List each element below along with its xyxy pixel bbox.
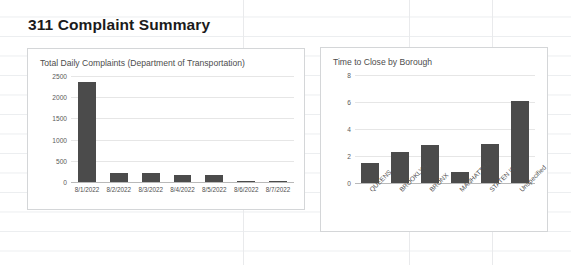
bar-slot: [445, 75, 475, 183]
x-axis-labels-daily: 8/1/20228/2/20228/3/20228/4/20228/5/2022…: [71, 186, 294, 193]
x-axis-label-slot: STATEN IS...: [475, 183, 505, 227]
x-axis-label-slot: MANHATTAN: [445, 183, 475, 227]
x-axis-label-slot: BROOKLYN: [385, 183, 415, 227]
bar[interactable]: [78, 82, 96, 182]
y-axis-tick-label: 0: [347, 180, 351, 187]
y-axis-tick-label: 2000: [52, 94, 67, 101]
bar[interactable]: [142, 173, 160, 182]
x-axis-tick-label: 8/7/2022: [262, 186, 294, 193]
gridline: [71, 182, 294, 183]
bar-slot: [103, 76, 135, 182]
bar-slot: [135, 76, 167, 182]
x-axis-tick-label: 8/3/2022: [135, 186, 167, 193]
bar-slot: [167, 76, 199, 182]
bar-slot: [262, 76, 294, 182]
bar-series-daily-complaints: [71, 76, 294, 182]
bar[interactable]: [110, 173, 128, 182]
bar[interactable]: [205, 175, 223, 182]
chart-card-daily-complaints[interactable]: Total Daily Complaints (Department of Tr…: [27, 48, 305, 210]
x-axis-labels-borough: QUEENSBROOKLYNBRONXMANHATTANSTATEN IS...…: [355, 183, 535, 227]
y-axis-tick-label: 1500: [52, 115, 67, 122]
y-axis-tick-label: 2: [347, 153, 351, 160]
x-axis-label-slot: QUEENS: [355, 183, 385, 227]
plot-area-daily-complaints: 05001000150020002500 8/1/20228/2/20228/3…: [71, 76, 294, 182]
bar-slot: [355, 75, 385, 183]
x-axis-tick-label: 8/4/2022: [167, 186, 199, 193]
bar-slot: [71, 76, 103, 182]
bar-slot: [198, 76, 230, 182]
chart-title-time-to-close: Time to Close by Borough: [333, 57, 432, 67]
x-axis-label-slot: Unspecified: [505, 183, 535, 227]
bar[interactable]: [174, 175, 192, 182]
x-axis-tick-label: 8/1/2022: [71, 186, 103, 193]
page-title: 311 Complaint Summary: [28, 16, 210, 34]
y-axis-tick-label: 500: [56, 157, 67, 164]
bar-slot: [230, 76, 262, 182]
y-axis-tick-label: 2500: [52, 73, 67, 80]
y-axis-tick-label: 8: [347, 72, 351, 79]
bar-slot: [385, 75, 415, 183]
y-axis-tick-label: 4: [347, 126, 351, 133]
x-axis-tick-label: 8/5/2022: [198, 186, 230, 193]
plot-area-time-to-close: 02468 QUEENSBROOKLYNBRONXMANHATTANSTATEN…: [355, 75, 535, 183]
bar[interactable]: [237, 181, 255, 182]
chart-card-time-to-close[interactable]: Time to Close by Borough 02468 QUEENSBRO…: [320, 47, 548, 232]
y-axis-tick-label: 6: [347, 99, 351, 106]
x-axis-tick-label: 8/2/2022: [103, 186, 135, 193]
x-axis-label-slot: BRONX: [415, 183, 445, 227]
bar[interactable]: [269, 181, 287, 182]
y-axis-tick-label: 0: [63, 179, 67, 186]
chart-title-daily-complaints: Total Daily Complaints (Department of Tr…: [40, 58, 245, 68]
x-axis-tick-label: 8/6/2022: [230, 186, 262, 193]
y-axis-tick-label: 1000: [52, 136, 67, 143]
